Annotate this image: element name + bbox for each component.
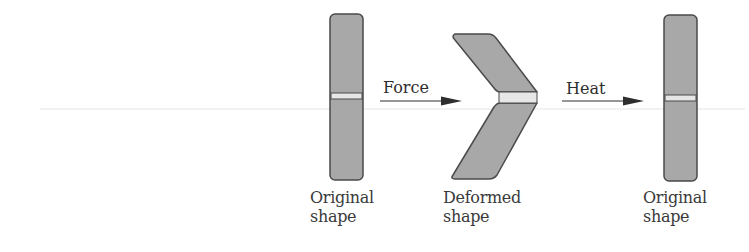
label-line-1: Original <box>310 188 374 207</box>
label-line-2: shape <box>443 207 521 226</box>
force-arrow <box>380 97 462 106</box>
label-line-2: shape <box>643 207 707 226</box>
label-line-1: Deformed <box>443 188 521 207</box>
deformed-shape-label: Deformed shape <box>443 188 521 226</box>
diagram-canvas <box>0 0 749 252</box>
original-shape-label-right: Original shape <box>643 188 707 226</box>
force-label: Force <box>383 78 429 97</box>
original-shape-label-left: Original shape <box>310 188 374 226</box>
original-bar-right <box>664 15 697 181</box>
label-line-1: Original <box>643 188 707 207</box>
original-bar-left <box>330 14 363 180</box>
label-line-2: shape <box>310 207 374 226</box>
heat-label: Heat <box>566 79 605 98</box>
deformed-chevron <box>452 34 537 179</box>
